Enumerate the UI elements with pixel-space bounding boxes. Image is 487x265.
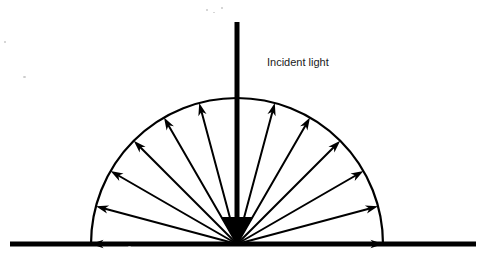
ray-arrowhead-4 <box>300 118 310 131</box>
incident-beam-arrowhead <box>221 217 253 244</box>
ray-arrowhead-7 <box>164 118 174 131</box>
scan-artifact-5 <box>128 246 131 247</box>
incident-light-label: Incident light <box>267 56 329 68</box>
scan-artifact-2 <box>221 7 223 9</box>
scattered-ray-10 <box>104 208 237 244</box>
ray-arrowhead-2 <box>351 171 364 181</box>
scan-artifact-0 <box>206 9 208 11</box>
scattering-diagram: Incident light <box>0 0 487 265</box>
ray-arrowhead-9 <box>111 171 124 181</box>
scan-artifact-3 <box>4 41 6 43</box>
scattered-ray-1 <box>237 208 370 244</box>
scan-artifact-4 <box>23 76 26 78</box>
scan-artifact-1 <box>213 12 215 13</box>
